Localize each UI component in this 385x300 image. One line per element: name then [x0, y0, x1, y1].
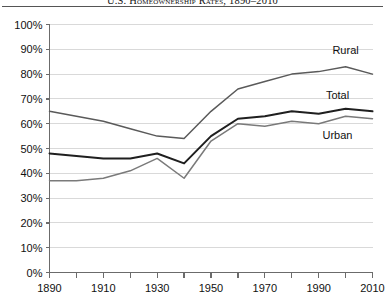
y-axis-label: 50% [20, 143, 42, 155]
series-label-total: Total [326, 89, 349, 101]
y-axis-label: 30% [20, 192, 42, 204]
x-axis-label: 1910 [91, 282, 115, 294]
y-axis-label: 80% [20, 68, 42, 80]
y-axis-label: 90% [20, 43, 42, 55]
y-axis-label: 10% [20, 242, 42, 254]
y-axis-label: 20% [20, 217, 42, 229]
y-axis-label: 40% [20, 167, 42, 179]
y-axis-label: 0% [27, 267, 43, 279]
x-axis-label: 1930 [145, 282, 169, 294]
figure-container: U.S. Homeownership Rates, 1890–2010 0%10… [0, 0, 385, 300]
series-label-urban: Urban [323, 129, 353, 141]
y-axis-label: 70% [20, 93, 42, 105]
x-axis-label: 1950 [199, 282, 223, 294]
x-axis-label: 1970 [253, 282, 277, 294]
series-label-rural: Rural [332, 44, 358, 56]
y-axis-label: 100% [14, 19, 42, 31]
y-axis-label: 60% [20, 118, 42, 130]
x-axis-label: 1990 [306, 282, 330, 294]
x-axis-label: 2010 [360, 282, 384, 294]
x-axis-label: 1890 [37, 282, 61, 294]
homeownership-line-chart: 0%10%20%30%40%50%60%70%80%90%100%1890191… [0, 0, 385, 300]
